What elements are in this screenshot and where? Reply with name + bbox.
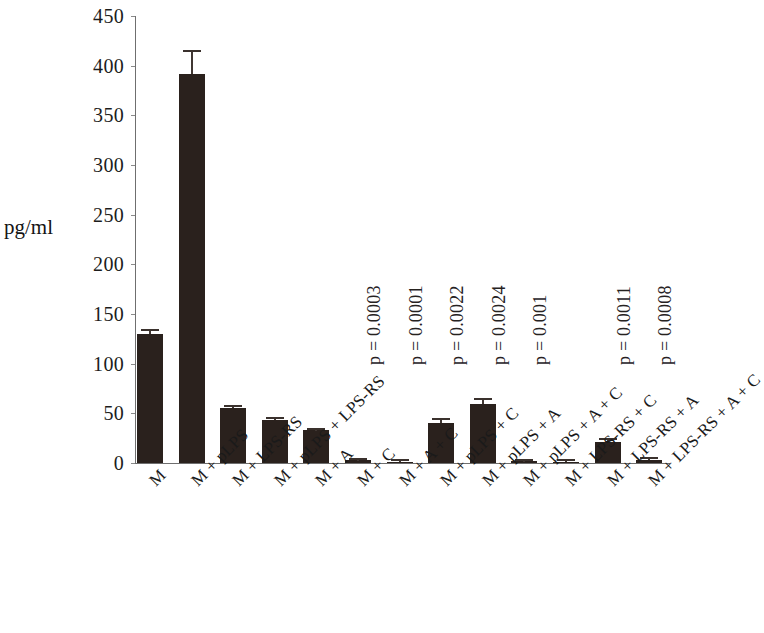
error-bar-cap: [183, 50, 201, 52]
x-axis-category-label: M: [146, 466, 170, 490]
y-tick-label: 200: [62, 254, 124, 274]
error-bar-stem: [440, 420, 442, 423]
error-bar-stem: [232, 407, 234, 408]
error-bar-stem: [482, 400, 484, 404]
p-value-label: p = 0.0003: [365, 285, 383, 365]
y-tick-label: 350: [62, 105, 124, 125]
bar-group[interactable]: [303, 16, 329, 463]
error-bar-cap: [224, 405, 242, 407]
error-bar-stem: [648, 459, 650, 460]
error-bar-cap: [432, 418, 450, 420]
p-value-label: p = 0.0024: [490, 285, 508, 365]
bar-group[interactable]: [262, 16, 288, 463]
bar-group[interactable]: [137, 16, 163, 463]
y-axis-title: pg/ml: [4, 216, 53, 238]
p-value-label: p = 0.0008: [656, 285, 674, 365]
error-bar-cap: [266, 417, 284, 419]
bar-group[interactable]: [511, 16, 537, 463]
x-axis-labels: MM + pLPSM + LPS-RSM + pLPS + LPS-RSM + …: [0, 463, 672, 633]
p-value-label: p = 0.001: [531, 295, 549, 365]
error-bar-stem: [191, 52, 193, 74]
p-value-label: p = 0.0011: [615, 286, 633, 365]
p-value-label: p = 0.0001: [407, 285, 425, 365]
p-value-label: p = 0.0022: [448, 285, 466, 365]
y-tick-label: 300: [62, 155, 124, 175]
bar-group[interactable]: [428, 16, 454, 463]
error-bar-stem: [149, 331, 151, 334]
y-tick-label: 450: [62, 6, 124, 26]
bar[interactable]: [179, 74, 205, 463]
plot-area: [135, 16, 670, 463]
y-tick-label: 100: [62, 354, 124, 374]
y-tick-label: 250: [62, 205, 124, 225]
bar-group[interactable]: [387, 16, 413, 463]
y-tick-label: 150: [62, 304, 124, 324]
error-bar-cap: [474, 398, 492, 400]
y-tick-label: 50: [62, 403, 124, 423]
bar-group[interactable]: [553, 16, 579, 463]
bar-group[interactable]: [179, 16, 205, 463]
y-tick-label: 400: [62, 56, 124, 76]
bar-group[interactable]: [470, 16, 496, 463]
error-bar-cap: [141, 329, 159, 331]
bar-group[interactable]: [220, 16, 246, 463]
error-bar-stem: [274, 419, 276, 420]
bar[interactable]: [137, 334, 163, 463]
